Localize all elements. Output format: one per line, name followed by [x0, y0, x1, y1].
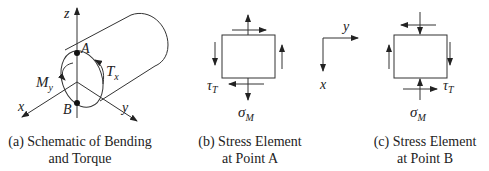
shear-label-a: τT: [207, 78, 219, 95]
point-b-label: B: [63, 102, 72, 117]
caption-b-line2: at Point A: [195, 150, 305, 167]
point-a-label: A: [80, 41, 90, 56]
stress-element-a: [215, 15, 282, 100]
bending-moment-label: My: [35, 74, 54, 93]
z-axis-label: z: [63, 6, 70, 21]
ref-x-label: x: [319, 77, 327, 92]
x-axis-label: x: [17, 99, 25, 114]
ref-y-label: y: [341, 19, 350, 34]
cylinder-top-edge: [65, 15, 131, 50]
cylinder-back-cap: [131, 13, 168, 66]
shear-label-b: τT: [443, 78, 455, 95]
cylinder-schematic: [22, 8, 168, 121]
element-square-b: [394, 35, 447, 78]
caption-c-line1: (c) Stress Element: [370, 133, 480, 150]
sigma-label-a: σM: [238, 104, 254, 123]
caption-a-line2: and Torque: [0, 150, 160, 167]
y-axis-label: y: [120, 100, 129, 115]
caption-c-line2: at Point B: [370, 150, 480, 167]
sigma-label-b: σM: [410, 104, 426, 123]
caption-b-line1: (b) Stress Element: [195, 133, 305, 150]
reference-axes: [323, 38, 358, 71]
bending-moment-arc: [62, 63, 73, 80]
torque-label: Tx: [106, 63, 119, 82]
element-square-a: [222, 35, 275, 78]
caption-c: (c) Stress Element at Point B: [370, 133, 480, 167]
point-a-dot: [74, 50, 80, 56]
caption-b: (b) Stress Element at Point A: [195, 133, 305, 167]
caption-a: (a) Schematic of Bending and Torque: [0, 133, 160, 167]
stress-element-b: [389, 12, 450, 100]
caption-a-line1: (a) Schematic of Bending: [0, 133, 160, 150]
point-b-dot: [74, 100, 80, 106]
